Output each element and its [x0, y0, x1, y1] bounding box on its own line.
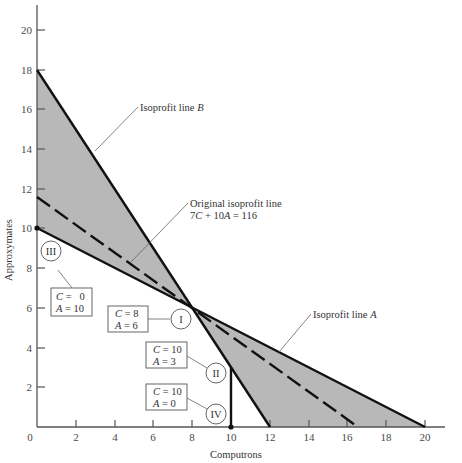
svg-text:2: 2 — [27, 381, 33, 393]
label-isoprofit-line-b: Isoprofit line B — [140, 102, 204, 113]
svg-text:0: 0 — [27, 431, 33, 443]
svg-text:III: III — [46, 246, 57, 257]
label-isoprofit-line-a: Isoprofit line A — [313, 309, 377, 320]
svg-text:A = 6: A = 6 — [114, 320, 138, 331]
corner-point-iv: C = 10 A = 0 IV — [146, 384, 226, 424]
svg-text:IV: IV — [210, 409, 221, 420]
svg-text:8: 8 — [27, 262, 33, 274]
svg-text:2: 2 — [73, 431, 79, 443]
svg-text:4: 4 — [27, 342, 33, 354]
svg-text:C = 10: C = 10 — [153, 344, 182, 355]
svg-text:18: 18 — [381, 431, 393, 443]
chart: 2 4 6 8 10 12 14 16 18 20 0 2 4 6 8 10 1… — [0, 0, 462, 463]
label-original-isoprofit-equation: 7C + 10A = 116 — [190, 210, 257, 221]
svg-text:14: 14 — [21, 143, 33, 155]
svg-text:8: 8 — [189, 431, 195, 443]
svg-text:II: II — [213, 368, 220, 379]
svg-text:20: 20 — [21, 24, 33, 36]
y-axis-title: Approxymates — [3, 219, 14, 281]
point-iv-dot — [228, 424, 233, 429]
point-iii-dot — [34, 225, 39, 230]
svg-text:A = 0: A = 0 — [152, 398, 176, 409]
svg-text:16: 16 — [342, 431, 354, 443]
svg-text:A = 3: A = 3 — [152, 356, 176, 367]
svg-text:C = 10: C = 10 — [153, 386, 182, 397]
corner-point-ii: C = 10 A = 3 II — [146, 342, 226, 383]
svg-text:18: 18 — [21, 64, 33, 76]
svg-text:10: 10 — [21, 222, 33, 234]
svg-text:12: 12 — [21, 183, 32, 195]
svg-text:12: 12 — [265, 431, 276, 443]
svg-text:C = 8: C = 8 — [115, 308, 138, 319]
svg-text:6: 6 — [150, 431, 156, 443]
label-original-isoprofit-line: Original isoprofit line — [190, 198, 282, 209]
svg-text:14: 14 — [304, 431, 316, 443]
svg-text:10: 10 — [226, 431, 238, 443]
svg-text:6: 6 — [27, 302, 33, 314]
svg-text:16: 16 — [21, 103, 33, 115]
svg-text:C = 0: C = 0 — [56, 291, 85, 302]
x-axis-title: Computrons — [210, 449, 262, 460]
svg-text:A = 10: A = 10 — [55, 303, 84, 314]
y-tick-labels: 2 4 6 8 10 12 14 16 18 20 — [21, 24, 33, 393]
isoprofit-line-b — [37, 70, 270, 427]
svg-text:20: 20 — [420, 431, 432, 443]
x-tick-labels: 0 2 4 6 8 10 12 14 16 18 20 — [27, 431, 431, 443]
svg-text:I: I — [179, 314, 183, 325]
svg-text:4: 4 — [112, 431, 118, 443]
